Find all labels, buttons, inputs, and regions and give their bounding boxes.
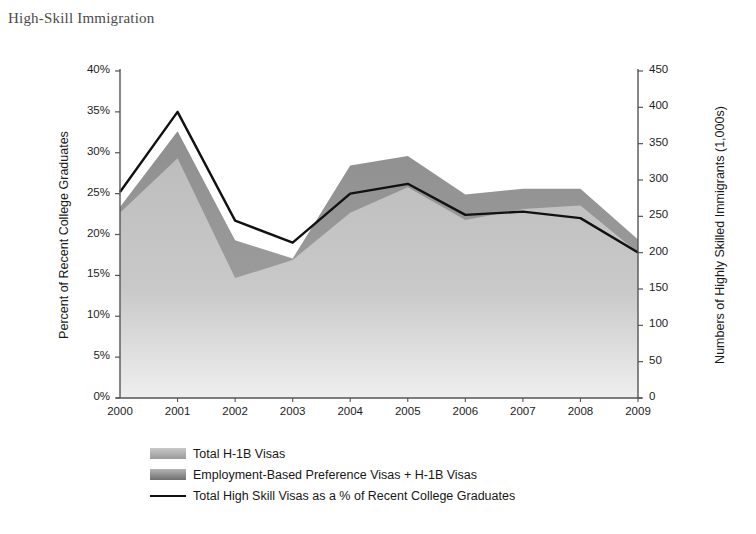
y-axis-left-tick-label: 25% — [38, 186, 110, 198]
legend-label: Total H-1B Visas — [193, 447, 285, 461]
y-axis-left-tick-label: 35% — [38, 104, 110, 116]
legend-swatch-icon-h1b — [150, 448, 186, 459]
y-axis-right-tick-label: 450 — [649, 63, 699, 75]
y-axis-right-tick-label: 350 — [649, 136, 699, 148]
y-axis-right-tick-label: 300 — [649, 172, 699, 184]
x-axis-tick-label: 2003 — [263, 405, 323, 417]
x-axis-tick-label: 2007 — [493, 405, 553, 417]
x-axis-tick-label: 2006 — [435, 405, 495, 417]
legend-swatch-icon-employment-based — [150, 469, 186, 480]
y-axis-left-tick-label: 40% — [38, 63, 110, 75]
y-axis-left-tick-label: 30% — [38, 145, 110, 157]
chart-legend: Total H-1B Visas Employment-Based Prefer… — [150, 443, 620, 506]
y-axis-left-tick-label: 0% — [38, 390, 110, 402]
legend-item-employment-based: Employment-Based Preference Visas + H-1B… — [150, 464, 620, 485]
legend-label: Total High Skill Visas as a % of Recent … — [193, 489, 515, 503]
legend-item-total-h1b: Total H-1B Visas — [150, 443, 620, 464]
legend-line-icon — [150, 490, 186, 501]
y-axis-right-tick-label: 200 — [649, 245, 699, 257]
y-axis-right-tick-label: 250 — [649, 208, 699, 220]
x-axis-tick-label: 2001 — [148, 405, 208, 417]
y-axis-right-tick-label: 400 — [649, 99, 699, 111]
x-axis-tick-label: 2002 — [205, 405, 265, 417]
x-axis-tick-label: 2000 — [90, 405, 150, 417]
y-axis-right-tick-label: 50 — [649, 354, 699, 366]
legend-item-percent-line: Total High Skill Visas as a % of Recent … — [150, 485, 620, 506]
y-axis-right-tick-label: 150 — [649, 281, 699, 293]
chart-figure: High-Skill Immigration Percent of Recent… — [0, 0, 756, 534]
x-axis-tick-label: 2009 — [608, 405, 668, 417]
x-axis-tick-label: 2005 — [378, 405, 438, 417]
y-axis-right-tick-label: 0 — [649, 390, 699, 402]
area-series-group — [120, 131, 638, 398]
x-axis-tick-label: 2008 — [550, 405, 610, 417]
y-axis-right-tick-label: 100 — [649, 317, 699, 329]
y-axis-left-tick-label: 5% — [38, 349, 110, 361]
y-axis-left-tick-label: 20% — [38, 227, 110, 239]
x-axis-tick-label: 2004 — [320, 405, 380, 417]
y-axis-left-tick-label: 10% — [38, 308, 110, 320]
legend-label: Employment-Based Preference Visas + H-1B… — [193, 468, 477, 482]
y-axis-left-tick-label: 15% — [38, 267, 110, 279]
